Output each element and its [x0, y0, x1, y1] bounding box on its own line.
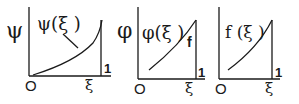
panel2-x-axis-label: ξ — [185, 81, 193, 96]
panel1-x-axis-label: ξ — [85, 78, 93, 93]
panel3-origin-label: O — [215, 81, 227, 96]
panel2-y-axis-label: φ — [117, 20, 132, 42]
panel2-origin-label: O — [134, 81, 146, 96]
panel3-x-axis-label: ξ — [265, 81, 273, 96]
panel1-origin-label: O — [25, 78, 37, 93]
panel1-y-axis-label: ψ — [6, 20, 23, 42]
panel1-pointer — [63, 34, 78, 48]
panel3-curve-label: f (ξ ) — [225, 24, 265, 41]
panel2-end-label: 1 — [198, 66, 205, 79]
panel2-curve-label: φ(ξ ) — [142, 24, 184, 42]
panel2-side-label: f — [187, 35, 192, 49]
panel1-end-label: 1 — [104, 62, 111, 75]
panel1-curve-label: ψ(ξ ) — [37, 15, 81, 33]
panel3-end-label: 1 — [275, 66, 282, 79]
